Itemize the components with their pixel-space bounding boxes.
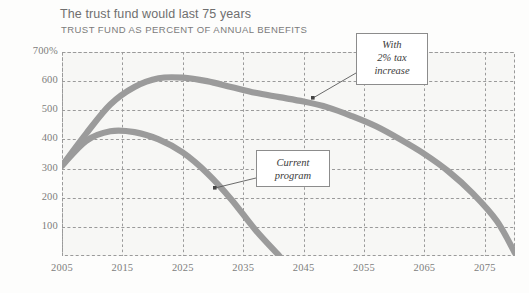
callout-tax-line-2: 2% tax [363, 51, 421, 64]
x-axis-tick-label: 2045 [281, 262, 327, 273]
y-axis-tick-label: 300 [0, 162, 58, 173]
callout-with-tax-increase: With 2% tax increase [356, 33, 428, 85]
x-axis-tick-label: 2075 [462, 262, 508, 273]
y-axis-tick-label: 400 [0, 132, 58, 143]
y-axis-labels: 100200300400500600700% [0, 0, 58, 293]
x-axis-tick-label: 2065 [401, 262, 447, 273]
chart-figure: The trust fund would last 75 years TRUST… [0, 0, 529, 293]
x-axis-tick-label: 2035 [220, 262, 266, 273]
callout-tax-line-3: increase [363, 64, 421, 77]
callout-current-line-1: Current [263, 156, 323, 169]
x-axis-tick-label: 2055 [341, 262, 387, 273]
x-axis-tick-label: 2005 [39, 262, 85, 273]
y-axis-tick-label: 100 [0, 220, 58, 231]
y-axis-tick-label: 700% [0, 45, 58, 56]
chart-subtitle: TRUST FUND AS PERCENT OF ANNUAL BENEFITS [61, 24, 307, 35]
page-title: The trust fund would last 75 years [60, 7, 251, 21]
callout-current-program: Current program [256, 150, 330, 187]
callout-current-line-2: program [263, 169, 323, 182]
callout-tax-line-1: With [363, 38, 421, 51]
y-axis-tick-label: 500 [0, 103, 58, 114]
x-axis-tick-label: 2015 [99, 262, 145, 273]
y-axis-tick-label: 600 [0, 74, 58, 85]
x-axis-tick-label: 2025 [160, 262, 206, 273]
series-line-2 [62, 131, 279, 256]
y-axis-tick-label: 200 [0, 191, 58, 202]
